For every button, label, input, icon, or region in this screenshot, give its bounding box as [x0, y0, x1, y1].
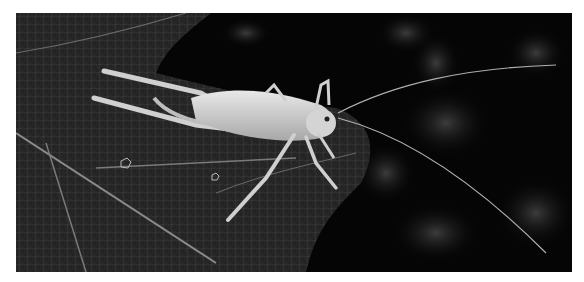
katydid-on-leaf-scene [16, 13, 572, 272]
photograph [16, 13, 572, 272]
leaf [16, 13, 370, 272]
